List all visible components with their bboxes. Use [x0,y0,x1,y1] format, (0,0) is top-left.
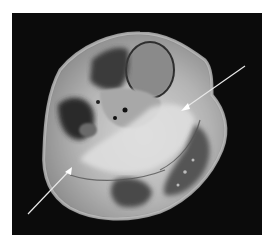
mri-scan [0,0,273,249]
